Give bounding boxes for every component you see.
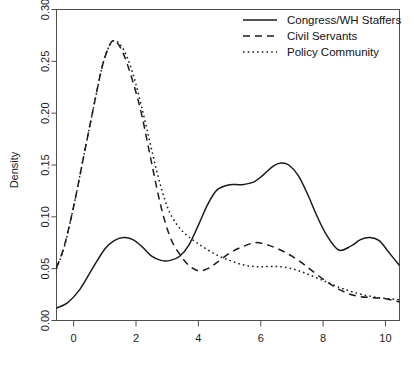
y-tick-label: 0.15	[39, 154, 51, 175]
x-tick-label: 6	[258, 332, 264, 344]
y-tick-label: 0.00	[39, 310, 51, 331]
legend-label: Congress/WH Staffers	[287, 14, 401, 26]
y-tick-label: 0.10	[39, 206, 51, 227]
x-tick-label: 10	[379, 332, 391, 344]
plot-svg: 0.000.050.100.150.200.250.30 0246810 Den…	[0, 0, 414, 367]
density-plot-figure: 0.000.050.100.150.200.250.30 0246810 Den…	[0, 0, 414, 367]
y-axis-title: Density	[8, 151, 20, 188]
legend-label: Policy Community	[287, 46, 379, 58]
x-tick-label: 0	[71, 332, 77, 344]
x-tick-label: 4	[195, 332, 201, 344]
y-tick-label: 0.25	[39, 51, 51, 72]
y-tick-label: 0.30	[39, 0, 51, 20]
x-tick-label: 2	[133, 332, 139, 344]
legend-label: Civil Servants	[287, 30, 358, 42]
x-tick-label: 8	[320, 332, 326, 344]
y-tick-label: 0.05	[39, 258, 51, 279]
y-tick-label: 0.20	[39, 102, 51, 123]
